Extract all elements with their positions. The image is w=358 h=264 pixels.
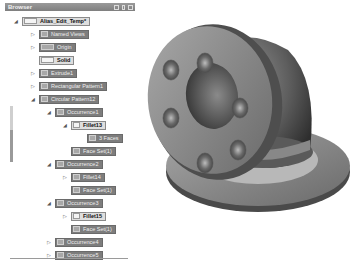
expand-toggle-icon[interactable]: ◢ xyxy=(30,96,36,102)
pin-icon[interactable] xyxy=(122,5,125,10)
expand-toggle-icon[interactable]: ◢ xyxy=(62,122,68,128)
tree-item-rectangular-pattern1[interactable]: ▷ Rectangular Pattern1 xyxy=(30,81,107,91)
tree-item-extrude1[interactable]: ▷ Extrude1 xyxy=(30,68,77,78)
tree-item-fillet14[interactable]: ▷ Fillet14 xyxy=(62,172,105,182)
browser-panel: Browser ◢ Alias_Edit_Temp* ▷ Named Views… xyxy=(0,0,138,264)
tree-item-occurrence2[interactable]: ◢ Occurrence2 xyxy=(46,159,103,169)
close-icon[interactable] xyxy=(128,5,133,10)
tree-item-occurrence4[interactable]: ▷ Occurrence4 xyxy=(46,237,103,247)
face-icon xyxy=(89,135,96,141)
tree-node-label[interactable]: Fillet13 xyxy=(71,121,106,130)
tree-item-fillet13[interactable]: ◢ Fillet13 xyxy=(62,120,106,130)
tree-node-label[interactable]: Fillet14 xyxy=(71,173,105,182)
divider xyxy=(10,258,128,259)
collapse-toggle-icon[interactable]: ▷ xyxy=(62,213,68,219)
tree-item-fillet15[interactable]: ▷ Fillet15 xyxy=(62,211,106,221)
expand-toggle-icon[interactable]: ◢ xyxy=(13,18,19,24)
tree-node-label[interactable]: 3 Faces xyxy=(87,134,123,143)
tree-item-occurrence3[interactable]: ◢ Occurrence3 xyxy=(46,198,103,208)
tree-item-circular-pattern12[interactable]: ◢ Circular Pattern12 xyxy=(30,94,99,104)
face-icon xyxy=(73,148,80,154)
solid-icon xyxy=(41,57,54,63)
tree-item-origin[interactable]: ▷ Origin xyxy=(30,42,76,52)
expand-toggle-icon[interactable]: ◢ xyxy=(46,161,52,167)
pattern-icon xyxy=(41,96,48,102)
tree-node-label[interactable]: Occurrence3 xyxy=(55,199,103,208)
pattern-icon xyxy=(41,83,48,89)
tree-item-face-set[interactable]: Face Set(1) xyxy=(62,185,116,195)
collapse-toggle-icon[interactable]: ▷ xyxy=(62,174,68,180)
occurrence-icon xyxy=(57,161,64,167)
tree-node-label[interactable]: Face Set(1) xyxy=(71,186,116,195)
tree-node-label[interactable]: Occurrence2 xyxy=(55,160,103,169)
tree-node-label[interactable]: Face Set(1) xyxy=(71,147,116,156)
panel-icon[interactable] xyxy=(114,5,119,10)
tree-item-occurrence1[interactable]: ◢ Occurrence1 xyxy=(46,107,103,117)
fillet-icon xyxy=(73,122,80,128)
tree-node-label[interactable]: Fillet15 xyxy=(71,212,106,221)
collapse-toggle-icon[interactable]: ▷ xyxy=(30,31,36,37)
folder-icon xyxy=(41,44,54,50)
occurrence-icon xyxy=(57,109,64,115)
occurrence-icon xyxy=(57,200,64,206)
tree-node-label[interactable]: Occurrence4 xyxy=(55,238,103,247)
fillet-icon xyxy=(73,213,80,219)
tree-node-label[interactable]: Face Set(1) xyxy=(71,225,116,234)
browser-header: Browser xyxy=(5,3,135,11)
tree-item-3-faces[interactable]: 3 Faces xyxy=(78,133,123,143)
3d-viewport[interactable] xyxy=(138,0,358,264)
fillet-icon xyxy=(73,174,80,180)
tree-node-label[interactable]: Extrude1 xyxy=(39,69,77,78)
collapse-toggle-icon[interactable]: ▷ xyxy=(30,83,36,89)
tree-item-named-views[interactable]: ▷ Named Views xyxy=(30,29,89,39)
occurrence-icon xyxy=(57,239,64,245)
tree-item-face-set[interactable]: Face Set(1) xyxy=(62,224,116,234)
folder-icon xyxy=(41,31,48,37)
tree-node-label[interactable]: Solid xyxy=(39,56,74,65)
tree-item-root[interactable]: ◢ Alias_Edit_Temp* xyxy=(13,16,90,26)
extrude-icon xyxy=(41,70,48,76)
tree-node-label[interactable]: Alias_Edit_Temp* xyxy=(22,17,90,26)
tree-item-face-set[interactable]: Face Set(1) xyxy=(62,146,116,156)
browser-title: Browser xyxy=(8,4,32,10)
expand-toggle-icon[interactable]: ◢ xyxy=(46,200,52,206)
face-icon xyxy=(73,187,80,193)
collapse-toggle-icon[interactable]: ▷ xyxy=(30,70,36,76)
face-icon xyxy=(73,226,80,232)
collapse-toggle-icon[interactable]: ▷ xyxy=(46,239,52,245)
expand-toggle-icon[interactable]: ◢ xyxy=(46,109,52,115)
tree-node-label[interactable]: Origin xyxy=(39,43,76,52)
part-icon xyxy=(24,18,37,24)
tree-node-label[interactable]: Named Views xyxy=(39,30,89,39)
scrollbar-thumb[interactable] xyxy=(10,130,13,162)
collapse-toggle-icon[interactable]: ▷ xyxy=(30,44,36,50)
tree-item-solid[interactable]: Solid xyxy=(30,55,74,65)
tree-node-label[interactable]: Occurrence1 xyxy=(55,108,103,117)
tree-node-label[interactable]: Circular Pattern12 xyxy=(39,95,99,104)
tree-node-label[interactable]: Rectangular Pattern1 xyxy=(39,82,107,91)
pipe-elbow-model xyxy=(138,0,358,264)
